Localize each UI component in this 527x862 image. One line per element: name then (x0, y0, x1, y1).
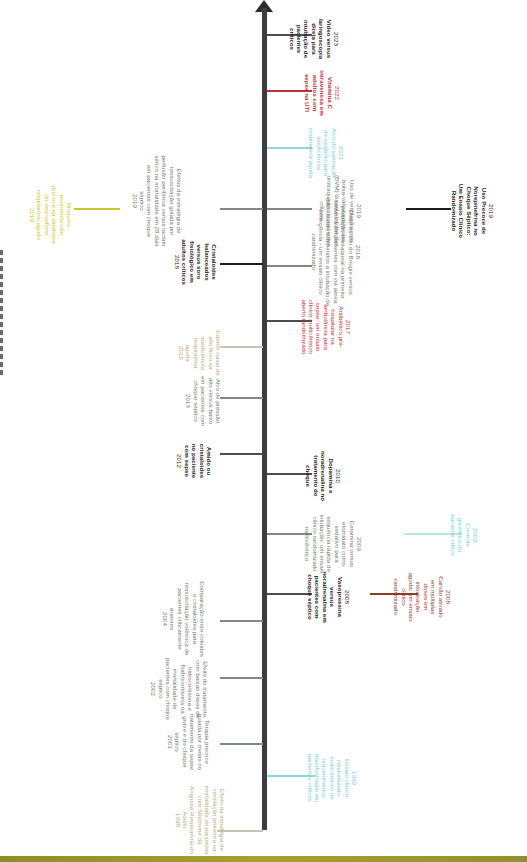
stem (220, 743, 263, 745)
timeline-entry-2002: Efeito do tratamento com baixas doses de… (125, 656, 209, 722)
timeline-entry-2014: Alvo de pressão alto versus baixo em pac… (170, 375, 222, 427)
stem (406, 208, 451, 210)
timeline-entry-2021: 2021 Alvo de saturação de oxigênio para … (299, 127, 345, 179)
timeline-entry-2009-cetamina: 2009 Cetamina versus etomidato como seda… (287, 511, 363, 577)
stem (220, 677, 263, 679)
timeline-axis (262, 8, 267, 830)
stem (220, 453, 263, 455)
timeline-entry-2019-bvm: 2019 Uso de ventilação com bolsa-válvula… (301, 175, 363, 247)
timeline-entry-2019-perfusao: Efeitos da estratégia de ressuscitação g… (125, 155, 183, 247)
timeline-entry-2008-vasopressina: 2008 Vasopressina versus noradrenalina e… (305, 571, 351, 623)
stem (220, 263, 263, 265)
footer-band (0, 856, 527, 862)
timeline-entry-2010: 2010 Dopamina e noradrenalina no tratame… (306, 448, 342, 504)
stem (220, 397, 263, 399)
stem (220, 346, 263, 348)
timeline-entry-2009-glicemico: 2009 Controle glicêmico do paciente crít… (449, 513, 479, 557)
stem (220, 620, 263, 622)
stem (74, 208, 120, 210)
timeline-entry-2004: Comparação entre coloides e cristaloides… (144, 580, 206, 658)
timeline-entry-2019-bloqueio: Bloqueio neuromuscular precoce na síndro… (27, 183, 73, 247)
timeline-entry-2012: Amido ou cristaloides no paciente com se… (167, 441, 213, 481)
timeline-entry-2008-carvao: 2008 Carvão ativado em múltiplas doses e… (402, 572, 452, 622)
timeline-entry-2015: Cateter nasal de alto fluxo na insuficiê… (176, 330, 222, 376)
timeline-entry-1998: Efeito da estratégia de ventilação prote… (166, 784, 226, 856)
stem (220, 208, 263, 210)
timeline-entry-2023: 2023 Vídeo versus laringoscopia direta p… (298, 16, 340, 62)
timeline-entry-1999: 1999 Ensaio clínico randomizado multicên… (306, 742, 358, 814)
title-strip (0, 250, 4, 390)
timeline-entry-2019-norepinefrina: 2019 Uso Precoce de Norepinefrina no Cho… (449, 181, 495, 241)
timeline-entry-2022: 2022 Vitamina C intravenosa em adultos c… (303, 67, 341, 119)
